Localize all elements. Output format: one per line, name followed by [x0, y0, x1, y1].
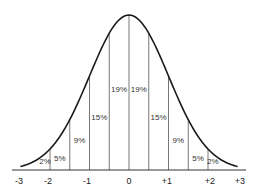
x-tick-label: -3 [15, 176, 23, 186]
normal-distribution-chart: 2%5%9%15%19%19%15%9%5%2% -3-2-10+1+2+3 [0, 0, 262, 196]
x-tick-labels: -3-2-10+1+2+3 [15, 176, 245, 186]
band-percent-label: 19% [111, 85, 127, 94]
x-tick-label: +3 [235, 176, 245, 186]
band-dividers [50, 15, 208, 170]
band-percent-label: 15% [151, 113, 167, 122]
band-percent-label: 19% [131, 85, 147, 94]
x-tick-label: 0 [126, 176, 131, 186]
x-tick-label: +2 [205, 176, 215, 186]
band-percent-label: 9% [173, 136, 185, 145]
x-tick-label: +1 [162, 176, 172, 186]
band-percent-label: 2% [207, 157, 219, 166]
x-tick-label: -1 [83, 176, 91, 186]
band-percent-label: 5% [54, 154, 66, 163]
x-tick-label: -2 [44, 176, 52, 186]
band-percent-label: 2% [39, 157, 51, 166]
band-percent-label: 9% [74, 136, 86, 145]
band-percent-label: 15% [91, 113, 107, 122]
band-percent-label: 5% [192, 154, 204, 163]
